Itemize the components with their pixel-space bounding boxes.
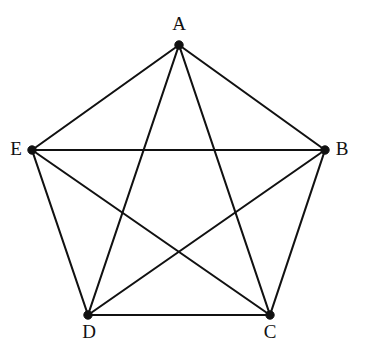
vertex-label-d: D (82, 321, 96, 342)
vertex-d[interactable] (84, 311, 92, 319)
vertex-label-a: A (172, 13, 186, 34)
vertex-e[interactable] (28, 146, 36, 154)
edge-a-c (179, 45, 270, 315)
vertex-label-b: B (336, 138, 349, 159)
vertex-c[interactable] (266, 311, 274, 319)
edge-a-b (179, 45, 325, 150)
edge-b-d (88, 150, 325, 315)
edges-group (32, 45, 325, 315)
edge-a-d (88, 45, 179, 315)
vertex-a[interactable] (175, 41, 183, 49)
vertex-b[interactable] (321, 146, 329, 154)
vertices-group (28, 41, 329, 319)
graph-figure: ABCDE (0, 0, 368, 355)
vertex-labels-group: ABCDE (10, 13, 348, 342)
vertex-label-e: E (10, 138, 22, 159)
graph-canvas: ABCDE (0, 0, 368, 355)
edge-c-e (32, 150, 270, 315)
edge-d-e (32, 150, 88, 315)
edge-b-c (270, 150, 325, 315)
vertex-label-c: C (264, 321, 277, 342)
edge-e-a (32, 45, 179, 150)
